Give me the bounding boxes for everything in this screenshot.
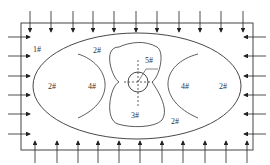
- zone-5-label: 5#: [145, 56, 153, 65]
- zone-4-left-label: 4#: [88, 82, 96, 91]
- zone-2-top-label: 2#: [93, 46, 101, 55]
- zone-1-label: 1#: [33, 45, 41, 54]
- zone-3-label: 3#: [131, 111, 139, 120]
- zone-2-right-label: 2#: [219, 82, 227, 91]
- zone-2-bottom-label: 2#: [171, 117, 179, 126]
- load-arrows: [8, 11, 266, 163]
- outer-ellipse-boundary: [33, 33, 241, 139]
- zone-labels: 1#2#2#4#5#4#2#3#2#: [33, 45, 227, 126]
- zone-4-right-label: 4#: [181, 82, 189, 91]
- zone-2-left-label: 2#: [48, 82, 56, 91]
- stress-zone-diagram: 1#2#2#4#5#4#2#3#2#: [0, 0, 270, 165]
